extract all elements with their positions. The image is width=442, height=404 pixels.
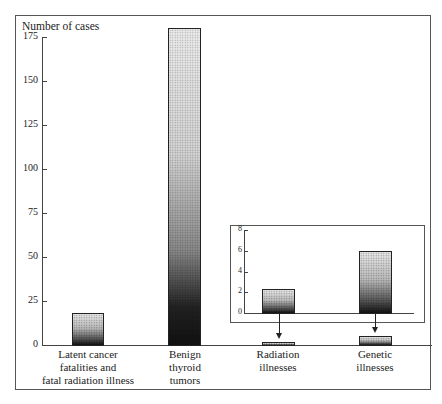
x-label-benign-thyroid: Benignthyroidtumors bbox=[150, 348, 220, 387]
inset-chart bbox=[230, 225, 425, 323]
y-axis bbox=[42, 37, 43, 346]
tick-label: 75 bbox=[14, 206, 38, 217]
bar-radiation-illnesses-main bbox=[262, 342, 295, 346]
x-label-latent-cancer: Latent cancerfatalities andfatal radiati… bbox=[28, 348, 148, 387]
bar-latent-cancer bbox=[72, 313, 104, 346]
tick-label: 8 bbox=[218, 224, 242, 233]
tick-label: 150 bbox=[14, 74, 38, 85]
arrow-head-icon bbox=[372, 327, 378, 333]
tick-label: 50 bbox=[14, 250, 38, 261]
x-label-radiation-illnesses: Radiationillnesses bbox=[243, 348, 313, 374]
tick-label: 6 bbox=[218, 245, 242, 254]
inset-bar-radiation-illnesses bbox=[262, 289, 295, 314]
tick-label: 125 bbox=[14, 118, 38, 129]
inset-bar-genetic-illnesses bbox=[359, 251, 392, 314]
tick-label: 25 bbox=[14, 294, 38, 305]
tick-label: 2 bbox=[218, 286, 242, 295]
x-label-genetic-illnesses: Geneticillnesses bbox=[340, 348, 410, 374]
tick-label: 0 bbox=[218, 307, 242, 316]
tick-label: 100 bbox=[14, 162, 38, 173]
arrow-radiation bbox=[279, 314, 280, 334]
arrow-genetic bbox=[375, 314, 376, 328]
tick-label: 175 bbox=[14, 30, 38, 41]
bar-benign-thyroid bbox=[168, 28, 201, 346]
arrow-head-icon bbox=[276, 333, 282, 339]
bar-genetic-illnesses-main bbox=[359, 336, 392, 346]
tick-label: 4 bbox=[218, 266, 242, 275]
